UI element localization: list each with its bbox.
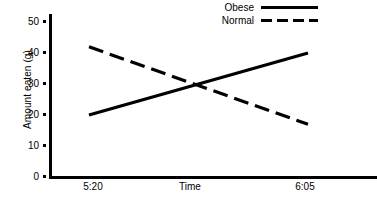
series-line-normal <box>89 47 308 125</box>
plot-area <box>0 0 377 199</box>
line-chart: Amount eaten (g) 50 40 30 20 10 0 5:20 T… <box>0 0 377 199</box>
